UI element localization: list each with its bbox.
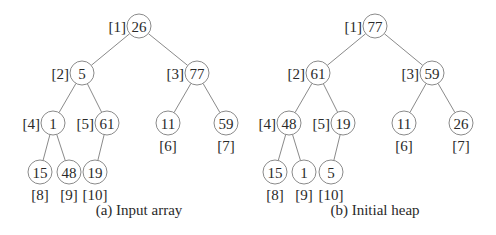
node-index-label: [6]: [395, 138, 413, 154]
node-value: 77: [368, 19, 384, 35]
node-index-label: [9]: [60, 187, 78, 203]
tree-node: 5[2]: [52, 61, 95, 85]
tree-edge: [57, 134, 66, 160]
node-value: 1: [49, 116, 57, 132]
input-array-tree: 26[1]5[2]77[3]1[4]61[5]11[6]59[7]15[8]48…: [23, 14, 239, 219]
tree-edge: [87, 84, 101, 113]
tree-edge: [43, 135, 50, 161]
tree-node: 11[6]: [156, 111, 180, 154]
node-index-label: [3]: [402, 66, 420, 82]
tree-edge: [438, 83, 455, 112]
tree-node: 59[7]: [214, 111, 238, 154]
node-value: 5: [78, 66, 86, 82]
node-index-label: [2]: [52, 66, 70, 82]
node-index-label: [6]: [159, 138, 177, 154]
tree-edge: [59, 83, 76, 112]
node-index-label: [1]: [109, 19, 127, 35]
node-value: 5: [327, 165, 335, 181]
tree-edge: [410, 83, 426, 112]
node-value: 19: [88, 165, 103, 181]
node-index-label: [5]: [77, 116, 95, 132]
initial-heap-tree: 77[1]61[2]59[3]48[4]19[5]11[6]26[7]15[8]…: [259, 14, 474, 219]
tree-node: 19[10]: [83, 160, 108, 203]
node-index-label: [3]: [167, 66, 185, 82]
node-value: 61: [100, 116, 115, 132]
node-value: 15: [33, 165, 48, 181]
tree-edge: [203, 83, 220, 112]
tree-node: 26[7]: [449, 111, 473, 154]
tree-node: 77[3]: [167, 61, 210, 85]
node-value: 59: [219, 116, 234, 132]
tree-edge: [327, 34, 365, 66]
node-index-label: [4]: [259, 116, 277, 132]
tree-node: 59[3]: [402, 61, 445, 85]
tree-node: 48[4]: [259, 111, 302, 135]
tree-node: 26[1]: [109, 14, 152, 38]
node-index-label: [8]: [266, 187, 284, 203]
node-index-label: [8]: [31, 187, 49, 203]
tree-node: 1[9]: [292, 160, 316, 203]
node-index-label: [7]: [452, 138, 470, 154]
node-value: 48: [282, 116, 297, 132]
tree-edge: [91, 34, 129, 66]
tree-edge: [323, 84, 337, 113]
node-value: 15: [268, 165, 283, 181]
figure-caption: (b) Initial heap: [330, 202, 419, 219]
node-value: 11: [161, 116, 175, 132]
node-index-label: [5]: [313, 116, 331, 132]
node-value: 48: [62, 165, 77, 181]
node-index-label: [9]: [295, 187, 313, 203]
tree-edge: [295, 83, 312, 112]
tree-edge: [384, 34, 422, 66]
node-value: 61: [311, 66, 326, 82]
tree-node: 19[5]: [313, 111, 356, 135]
node-index-label: [10]: [83, 187, 108, 203]
tree-node: 61[5]: [77, 111, 120, 135]
tree-edge: [148, 34, 187, 66]
tree-node: 61[2]: [288, 61, 331, 85]
node-value: 77: [190, 66, 206, 82]
tree-edge: [98, 135, 104, 161]
tree-node: 77[1]: [345, 14, 388, 38]
node-value: 26: [132, 19, 148, 35]
tree-node: 1[4]: [23, 111, 66, 135]
heap-diagram: 26[1]5[2]77[3]1[4]61[5]11[6]59[7]15[8]48…: [0, 0, 496, 235]
node-value: 26: [454, 116, 470, 132]
node-index-label: [7]: [217, 138, 235, 154]
tree-node: 15[8]: [28, 160, 52, 203]
node-value: 1: [300, 165, 308, 181]
node-index-label: [2]: [288, 66, 306, 82]
tree-edge: [174, 83, 191, 112]
tree-edge: [278, 135, 285, 161]
node-value: 19: [336, 116, 351, 132]
node-index-label: [1]: [345, 19, 363, 35]
tree-node: 5[10]: [319, 160, 344, 203]
node-value: 59: [425, 66, 440, 82]
node-index-label: [10]: [319, 187, 344, 203]
tree-node: 48[9]: [57, 160, 81, 203]
tree-node: 15[8]: [263, 160, 287, 203]
tree-edge: [334, 135, 340, 161]
node-value: 11: [397, 116, 411, 132]
node-index-label: [4]: [23, 116, 41, 132]
figure-caption: (a) Input array: [96, 202, 183, 219]
tree-node: 11[6]: [392, 111, 416, 154]
tree-edge: [293, 134, 301, 160]
